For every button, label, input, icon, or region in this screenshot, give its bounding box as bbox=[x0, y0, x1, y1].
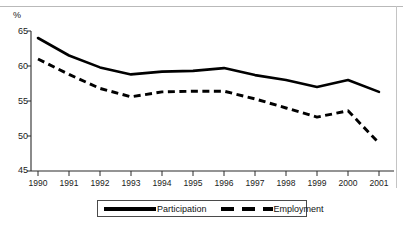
chart-legend: Participation Employment bbox=[97, 200, 307, 217]
series-line-participation bbox=[38, 38, 379, 92]
legend-label-employment: Employment bbox=[274, 204, 324, 214]
legend-swatch-dashed-icon bbox=[221, 207, 273, 211]
chart-figure: % 65 60 55 50 45 1990 1991 1992 1993 199… bbox=[0, 0, 403, 227]
series-line-employment bbox=[38, 59, 379, 143]
legend-label-participation: Participation bbox=[157, 204, 207, 214]
plot-area bbox=[0, 0, 403, 227]
legend-entry-employment: Employment bbox=[221, 201, 324, 216]
x-axis-ticks bbox=[38, 171, 379, 176]
legend-swatch-solid-icon bbox=[104, 207, 156, 211]
y-axis-ticks bbox=[27, 31, 31, 171]
legend-entry-participation: Participation bbox=[104, 201, 207, 216]
